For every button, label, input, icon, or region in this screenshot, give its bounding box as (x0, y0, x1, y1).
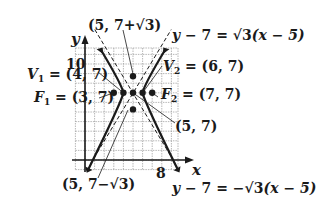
label-asymptote-positive: y − 7 = √3(x − 5) (171, 27, 305, 43)
label-v1: V1 = (4, 7) (27, 66, 108, 84)
branch-arrow-icon (174, 166, 183, 174)
label-asymptote-negative: y − 7 = −√3(x − 5) (171, 180, 316, 196)
y-axis-label: y (70, 30, 81, 48)
label-conjugate-top: (5, 7+√3) (88, 17, 161, 33)
label-f1: F1 = (3, 7) (33, 89, 114, 107)
conjugate-bottom-dot (130, 106, 136, 112)
x-axis-label: x (191, 161, 202, 179)
vertex-v1-dot (120, 90, 126, 96)
label-f2: F2 = (7, 7) (160, 86, 241, 104)
focus-f2-dot (149, 90, 155, 96)
vertex-v2-dot (139, 90, 145, 96)
label-center: (5, 7) (175, 118, 217, 134)
conjugate-top-dot (130, 73, 136, 79)
y-axis-arrow-icon (82, 35, 89, 44)
label-conjugate-bottom: (5, 7−√3) (62, 176, 135, 192)
x-tick-8: 8 (156, 165, 166, 181)
center-dot (130, 90, 136, 96)
label-v2: V2 = (6, 7) (163, 58, 244, 76)
hyperbola-diagram: y x 10 8 (5, 7+√3) y − 7 = √3(x − 5) V1 … (0, 0, 329, 206)
